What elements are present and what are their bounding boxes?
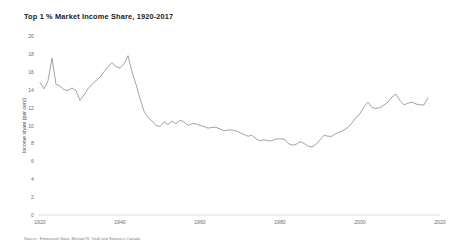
y-tick-label: 12 — [28, 105, 34, 111]
x-tick-label: 2000 — [354, 219, 366, 225]
y-tick-label: 0 — [31, 212, 34, 218]
chart-figure: Top 1 % Market Income Share, 1920-2017 0… — [0, 0, 452, 251]
y-tick-label: 6 — [31, 158, 34, 164]
x-axis-tick-labels: 192019401960198020002020 — [34, 219, 446, 225]
y-tick-label: 2 — [31, 194, 34, 200]
y-tick-label: 16 — [28, 69, 34, 75]
y-tick-label: 20 — [28, 33, 34, 39]
x-tick-label: 1920 — [34, 219, 46, 225]
y-tick-label: 8 — [31, 140, 34, 146]
y-axis-tick-labels: 02468101214161820 — [28, 33, 34, 218]
y-tick-label: 10 — [28, 123, 34, 129]
x-tick-label: 1960 — [194, 219, 206, 225]
y-tick-label: 4 — [31, 176, 34, 182]
y-axis-title: Income share (per cent) — [21, 98, 27, 153]
x-tick-label: 2020 — [434, 219, 446, 225]
source-note: Source : Emmanuel Saez, Michael R. Veall… — [24, 236, 140, 241]
line-chart-plot: 02468101214161820 1920194019601980200020… — [0, 0, 452, 251]
x-tick-label: 1980 — [274, 219, 286, 225]
y-tick-label: 14 — [28, 87, 34, 93]
y-tick-label: 18 — [28, 51, 34, 57]
x-tick-label: 1940 — [114, 219, 126, 225]
data-series-line — [40, 56, 428, 147]
